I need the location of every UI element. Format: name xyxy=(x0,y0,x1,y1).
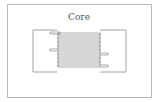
winding-turn xyxy=(58,33,100,35)
winding-lead-bottom xyxy=(58,65,108,67)
winding-coil xyxy=(50,32,108,67)
winding-turn-extended-right xyxy=(58,53,108,55)
winding-turn xyxy=(58,37,100,39)
core-winding-diagram xyxy=(0,0,158,102)
winding-turn xyxy=(58,61,100,63)
winding-turn xyxy=(58,57,100,59)
winding-turn xyxy=(58,45,100,47)
winding-turn-extended-left xyxy=(50,49,100,51)
winding-turn xyxy=(58,41,100,43)
